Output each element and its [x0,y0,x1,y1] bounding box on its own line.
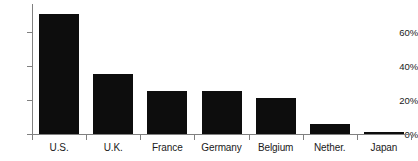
bar-3 [202,91,242,134]
x-axis-category-label: France [140,142,194,153]
x-axis-tick-mark [86,135,87,140]
bar-4 [256,98,296,134]
bar-0 [39,14,79,134]
x-axis-category-label: Germany [194,142,248,153]
bar-1 [93,74,133,134]
bar-6 [364,132,404,134]
bar-chart: 0% 20% 40% 60% U.S. U.K. France Germany … [0,0,418,161]
x-axis-line [32,134,411,135]
x-axis-tick-mark [249,135,250,140]
x-axis-tick-mark [194,135,195,140]
x-axis-category-label: Nether. [303,142,357,153]
x-axis-category-label: U.S. [32,142,86,153]
x-axis-category-label: U.K. [86,142,140,153]
x-axis-category-label: Japan [357,142,411,153]
x-axis-tick-mark [140,135,141,140]
x-axis-tick-mark [303,135,304,140]
x-axis-category-label: Belgium [249,142,303,153]
bar-2 [147,91,187,134]
bars-layer [32,4,411,134]
bar-5 [310,124,350,134]
x-axis-tick-mark [357,135,358,140]
x-axis-tick-mark [32,135,33,140]
x-axis-tick-mark [411,135,412,140]
